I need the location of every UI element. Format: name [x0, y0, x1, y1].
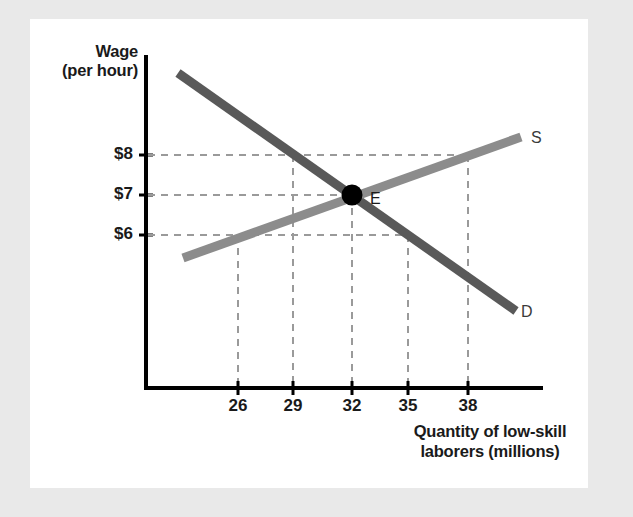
y-axis-title-line1: Wage [0, 42, 138, 61]
x-tick-label-26: 26 [208, 396, 268, 416]
y-tick-label-7: $7 [70, 184, 133, 204]
x-axis-title-line1: Quantity of low-skill [383, 422, 597, 441]
equilibrium-point [342, 185, 363, 206]
x-tick-label-35: 35 [378, 396, 438, 416]
x-tick-label-38: 38 [438, 396, 498, 416]
supply-curve-label: S [531, 129, 542, 148]
x-tick-label-32: 32 [322, 396, 382, 416]
x-axis-title-line2: laborers (millions) [383, 442, 597, 461]
y-tick-label-8: $8 [70, 144, 133, 164]
y-tick-label-6: $6 [70, 224, 133, 244]
demand-curve-label: D [521, 303, 533, 322]
equilibrium-point-label: E [370, 190, 381, 209]
x-tick-label-29: 29 [263, 396, 323, 416]
axes [144, 55, 543, 389]
y-axis-title-line2: (per hour) [0, 61, 138, 80]
y-axis-title: Wage (per hour) [0, 42, 138, 81]
chart-page: Wage (per hour) $8 $7 $6 26 29 32 35 38 … [0, 0, 633, 517]
